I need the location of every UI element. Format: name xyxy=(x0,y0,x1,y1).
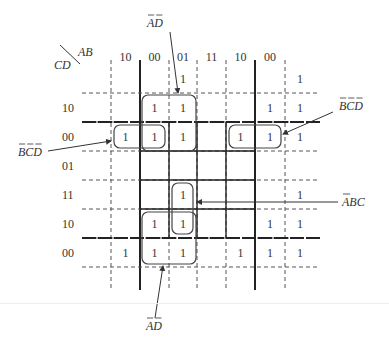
column-label: 00 xyxy=(149,50,161,64)
cell-value: 1 xyxy=(267,246,273,260)
label-bcd-right: BCD xyxy=(283,98,363,134)
cell-values: 111111111111111111111111 xyxy=(123,72,304,260)
karnaugh-map: AB CD 100001111000 100001111000 11111111… xyxy=(0,0,389,351)
cell-value: 1 xyxy=(152,101,158,115)
cell-value: 1 xyxy=(267,101,273,115)
cell-value: 1 xyxy=(152,246,158,260)
cell-value: 1 xyxy=(180,101,186,115)
cell-value: 1 xyxy=(152,217,158,231)
term-label: ABC xyxy=(341,195,366,209)
column-label: 01 xyxy=(177,50,189,64)
label-abc: ABC xyxy=(197,194,366,209)
term-label: BCD xyxy=(18,145,42,159)
cell-value: 1 xyxy=(297,188,303,202)
term-label: AD xyxy=(146,16,163,30)
page-divider xyxy=(0,303,389,304)
term-label: BCD xyxy=(339,99,363,113)
cell-value: 1 xyxy=(297,101,303,115)
label-ad-bottom: AD xyxy=(145,266,163,333)
row-label: 10 xyxy=(62,217,74,231)
map-grid xyxy=(82,60,320,290)
row-variable-label: CD xyxy=(54,58,71,72)
column-variable-label: AB xyxy=(77,45,93,59)
column-label: 10 xyxy=(120,50,132,64)
cell-value: 1 xyxy=(297,72,303,86)
term-label: AD xyxy=(145,319,162,333)
column-label: 11 xyxy=(206,50,218,64)
cell-value: 1 xyxy=(180,217,186,231)
arrow-icon xyxy=(155,266,163,318)
column-label: 00 xyxy=(264,50,276,64)
cell-value: 1 xyxy=(152,130,158,144)
cell-value: 1 xyxy=(123,246,129,260)
cell-value: 1 xyxy=(180,188,186,202)
corner-label: AB CD xyxy=(54,45,93,72)
row-labels: 100001111000 xyxy=(62,101,74,260)
row-label: 00 xyxy=(62,130,74,144)
cell-value: 1 xyxy=(180,246,186,260)
arrow-icon xyxy=(48,141,111,151)
row-label: 10 xyxy=(62,101,74,115)
column-label: 10 xyxy=(235,50,247,64)
cell-value: 1 xyxy=(180,130,186,144)
cell-value: 1 xyxy=(297,217,303,231)
cell-value: 1 xyxy=(238,130,244,144)
cell-value: 1 xyxy=(180,72,186,86)
cell-value: 1 xyxy=(267,217,273,231)
cell-value: 1 xyxy=(123,130,129,144)
cell-value: 1 xyxy=(297,246,303,260)
cell-value: 1 xyxy=(238,246,244,260)
column-labels: 100001111000 xyxy=(120,50,277,64)
cell-value: 1 xyxy=(267,130,273,144)
row-label: 11 xyxy=(62,188,74,202)
label-bcd-left: BCD xyxy=(18,141,111,159)
row-label: 00 xyxy=(62,246,74,260)
row-label: 01 xyxy=(62,159,74,173)
cell-value: 1 xyxy=(297,130,303,144)
